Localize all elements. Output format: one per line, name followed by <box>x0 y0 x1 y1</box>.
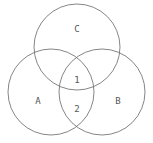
region-2-label: 2 <box>74 104 79 114</box>
label-c: C <box>74 24 79 34</box>
region-1-label: 1 <box>74 75 79 85</box>
circle-a <box>8 49 94 135</box>
circle-b <box>59 49 145 135</box>
label-b: B <box>115 96 120 106</box>
label-a: A <box>35 96 41 106</box>
venn-diagram: C A B 1 2 <box>0 0 153 143</box>
